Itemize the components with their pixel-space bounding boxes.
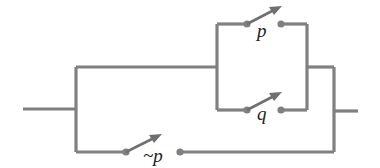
switch-p: p — [243, 6, 284, 41]
switch-p-label: p — [255, 20, 267, 41]
switch-not-p: ~p — [122, 134, 183, 166]
switch-p-right-terminal — [277, 20, 284, 27]
circuit-diagram: p q ~p — [0, 0, 380, 168]
switch-not-p-right-terminal — [176, 148, 183, 155]
switch-not-p-label: ~p — [143, 145, 163, 166]
switch-q: q — [243, 92, 284, 124]
switch-q-label: q — [257, 103, 267, 124]
switch-q-right-terminal — [277, 106, 284, 113]
